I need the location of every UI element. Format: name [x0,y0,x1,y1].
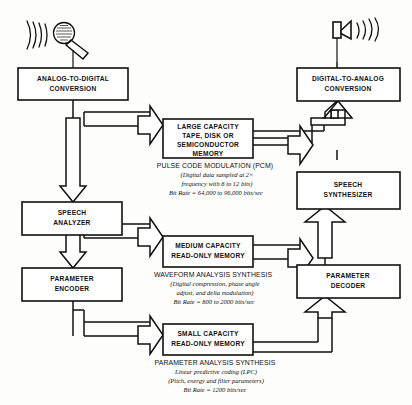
block-label-line1: SMALL CAPACITY [177,330,238,337]
block-label-line2: DECODER [331,282,366,289]
sound-waves-output-icon [357,18,379,41]
annotation-waveform: WAVEFORM ANALYSIS SYNTHESIS (Digital com… [154,271,273,305]
annotation-heading: WAVEFORM ANALYSIS SYNTHESIS [154,271,273,278]
diagram-canvas: ANALOG-TO-DIGITAL CONVERSION SPEECH ANAL… [0,0,412,405]
microphone-icon [54,23,89,69]
block-label-line1: PARAMETER [326,272,370,279]
block-digital-to-analog-conversion: DIGITAL-TO-ANALOG CONVERSION [297,68,400,101]
block-label-line1: ANALOG-TO-DIGITAL [37,75,109,82]
block-parameter-encoder: PARAMETER ENCODER [22,268,122,301]
arrow-small-to-decoder [305,296,345,318]
block-large-capacity-memory: LARGE CAPACITY TAPE, DISK OR SEMICONDUCT… [163,119,253,158]
annotation-pcm: PULSE CODE MODULATION (PCM) (Digital dat… [157,162,273,196]
annotation-detail1: Linear predictive coding (LPC) [174,368,257,376]
annotation-detail1: (Digital compression, phase angle [170,280,259,288]
sound-waves-input-icon [27,21,47,49]
block-small-capacity-memory: SMALL CAPACITY READ-ONLY MEMORY [163,324,253,355]
block-medium-capacity-memory: MEDIUM CAPACITY READ-ONLY MEMORY [163,236,253,267]
block-speech-analyzer: SPEECH ANALYZER [22,202,122,235]
block-parameter-decoder: PARAMETER DECODER [297,265,400,298]
annotation-parameter: PARAMETER ANALYSIS SYNTHESIS Linear pred… [155,359,276,393]
block-label-line2: READ-ONLY MEMORY [171,340,245,347]
block-label-line2: READ-ONLY MEMORY [171,252,245,259]
block-analog-to-digital-conversion: ANALOG-TO-DIGITAL CONVERSION [18,68,128,100]
block-speech-synthesizer: SPEECH SYNTHESIZER [297,172,400,209]
block-label-line1: SPEECH [58,209,87,216]
annotation-bitrate: Bit Rate = 1200 bits/sec [184,386,247,393]
block-label-line2: SYNTHESIZER [324,191,373,198]
block-label-line2: TAPE, DISK OR [182,132,234,140]
block-label-line4: MEMORY [193,150,224,157]
annotation-bitrate: Bit Rate = 64,000 to 96,000 bits/sec [169,189,263,196]
block-label-line1: LARGE CAPACITY [177,123,239,130]
speaker-icon [333,21,351,62]
annotation-detail2: frequency with 8 to 12 bits) [181,180,252,188]
arrow-decoder-to-synth [305,206,345,258]
block-label-line2: ANALYZER [53,219,90,226]
annotation-heading: PARAMETER ANALYSIS SYNTHESIS [155,359,276,366]
block-label-line2: ENCODER [55,285,90,292]
annotation-heading: PULSE CODE MODULATION (PCM) [157,162,273,170]
block-label-line1: PARAMETER [50,275,94,282]
block-label-line1: DIGITAL-TO-ANALOG [312,75,384,82]
block-label-line1: MEDIUM CAPACITY [175,242,241,249]
block-label-line2: CONVERSION [325,85,372,92]
annotation-bitrate: Bit Rate = 800 to 2000 bits/sec [174,298,255,305]
annotation-detail1: (Digital data sampled at 2× [181,171,254,179]
block-label-line2: CONVERSION [50,85,97,92]
annotation-detail2: (Pitch, energy and filter parameters) [168,377,264,385]
block-label-line1: SPEECH [334,181,363,188]
annotation-detail2: adjust, and delta modulation) [177,289,254,297]
speech-codec-diagram: ANALOG-TO-DIGITAL CONVERSION SPEECH ANAL… [0,0,412,405]
block-label-line3: SEMICONDUCTOR [177,141,239,148]
